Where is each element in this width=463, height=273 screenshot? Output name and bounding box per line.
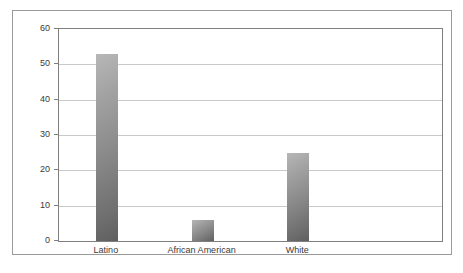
- x-tick-label: White: [286, 246, 309, 255]
- y-tick-label: 40: [40, 94, 50, 103]
- y-axis: 0102030405060: [13, 11, 58, 243]
- y-tick-label: 30: [40, 130, 50, 139]
- plot-area: [58, 28, 443, 242]
- bar: [96, 54, 118, 241]
- y-tick-label: 10: [40, 200, 50, 209]
- y-tick-label: 60: [40, 24, 50, 33]
- x-tick-label: African American: [168, 246, 236, 255]
- bar: [287, 153, 309, 241]
- y-tick-label: 50: [40, 59, 50, 68]
- bar: [192, 220, 214, 241]
- bar-chart-figure: 0102030405060 LatinoAfrican AmericanWhit…: [12, 10, 452, 255]
- x-tick-label: Latino: [94, 246, 119, 255]
- y-tick-label: 20: [40, 165, 50, 174]
- y-tick-label: 0: [45, 236, 50, 245]
- x-axis: LatinoAfrican AmericanWhite: [58, 244, 443, 264]
